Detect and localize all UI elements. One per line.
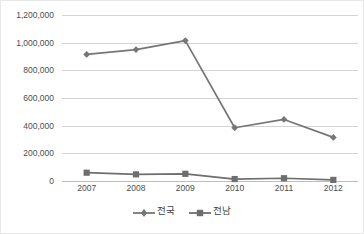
chart-legend: 전국 전남 (1, 205, 363, 217)
data-point (83, 51, 90, 58)
data-point (330, 134, 337, 141)
y-tick-label: 1,200,000 (16, 10, 54, 20)
line-chart: 1,200,000 1,000,000 800,000 600,000 400,… (0, 0, 364, 234)
y-tick-label: 400,000 (23, 121, 54, 131)
y-tick-label: 800,000 (23, 65, 54, 75)
y-axis-labels: 1,200,000 1,000,000 800,000 600,000 400,… (1, 15, 58, 181)
legend-entry-jeonnam[interactable]: 전남 (189, 205, 231, 217)
x-tick-label: 2008 (127, 183, 146, 193)
y-tick-label: 1,000,000 (16, 38, 54, 48)
data-point (182, 171, 188, 177)
x-tick-label: 2012 (324, 183, 343, 193)
data-point (182, 37, 189, 44)
data-point (232, 176, 238, 182)
x-axis-labels: 2007 2008 2009 2010 2011 2012 (62, 183, 358, 199)
data-point (133, 46, 140, 53)
legend-label-national: 전국 (157, 206, 175, 216)
y-tick-label: 200,000 (23, 148, 54, 158)
series-layer (62, 15, 358, 181)
data-point (84, 170, 90, 176)
x-tick-label: 2007 (77, 183, 96, 193)
x-tick-label: 2011 (275, 183, 293, 193)
plot-area (62, 15, 358, 181)
y-tick-label: 0 (49, 176, 54, 186)
data-point (281, 116, 288, 123)
x-tick-label: 2009 (176, 183, 195, 193)
series-line-national (87, 41, 334, 138)
diamond-marker-icon (133, 205, 155, 217)
legend-entry-national[interactable]: 전국 (133, 205, 175, 217)
x-tick-label: 2010 (225, 183, 244, 193)
square-marker-icon (189, 205, 211, 217)
data-point (133, 171, 139, 177)
y-tick-label: 600,000 (23, 93, 54, 103)
legend-label-jeonnam: 전남 (213, 206, 231, 216)
x-axis-line (62, 181, 358, 182)
series-line-jeonnam (87, 173, 334, 180)
data-point (231, 124, 238, 131)
data-point (281, 175, 287, 181)
